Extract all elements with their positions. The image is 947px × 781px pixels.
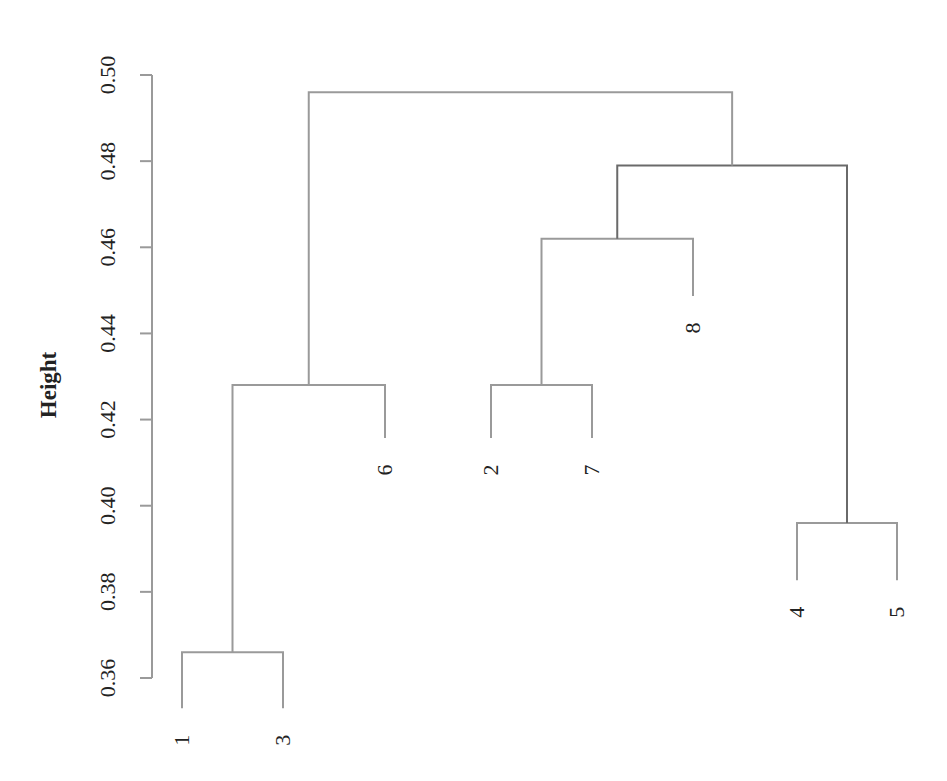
leaf-label: 6 (372, 465, 397, 476)
merge-link (542, 239, 694, 385)
y-axis: 0.360.380.400.420.440.460.480.50 (95, 56, 152, 698)
y-tick-label: 0.48 (95, 142, 120, 181)
y-tick-label: 0.40 (95, 486, 120, 525)
leaf-label: 3 (270, 735, 295, 746)
y-axis-label: Height (36, 351, 61, 418)
leaf-label: 1 (169, 735, 194, 746)
merge-link (233, 385, 386, 652)
y-tick-label: 0.42 (95, 400, 120, 439)
merge-link (182, 652, 283, 708)
leaf-label: 7 (579, 465, 604, 476)
y-tick-label: 0.36 (95, 659, 120, 698)
merge-link (797, 523, 897, 580)
leaf-label: 8 (680, 322, 705, 333)
dendrogram-chart: 0.360.380.400.420.440.460.480.50 1362784… (0, 0, 947, 781)
leaf-label: 2 (478, 465, 503, 476)
y-tick-label: 0.38 (95, 573, 120, 612)
leaf-label: 5 (884, 607, 909, 618)
leaf-label: 4 (784, 607, 809, 618)
y-tick-label: 0.50 (95, 56, 120, 95)
y-tick-label: 0.46 (95, 228, 120, 266)
merge-link (491, 385, 592, 438)
y-tick-label: 0.44 (95, 314, 120, 353)
merge-link (617, 165, 847, 522)
